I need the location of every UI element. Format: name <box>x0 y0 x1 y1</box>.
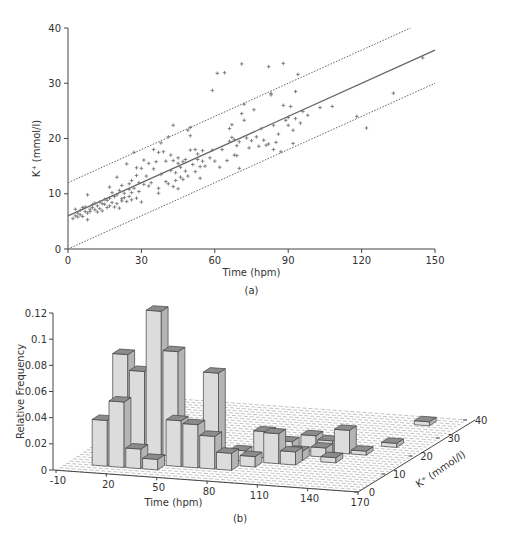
time-tick-label: 80 <box>203 486 216 497</box>
z-axis-label: Relative Frequency <box>15 344 26 439</box>
bar <box>143 454 165 470</box>
panel-label-b: (b) <box>233 513 247 524</box>
z-tick-label: 0.08 <box>25 360 47 371</box>
k-tick-label: 10 <box>393 469 406 480</box>
z-tick-label: 0.02 <box>25 438 47 449</box>
figure: 0102030400306090120150Time (hpm)K⁺ (mmol… <box>0 0 505 543</box>
time-tick-label: 140 <box>300 493 319 504</box>
z-tick-label: 0.1 <box>31 334 47 345</box>
z-tick-label: 0.06 <box>25 386 47 397</box>
k-tick-label: 40 <box>475 415 488 426</box>
k-tick-label: 0 <box>369 487 375 498</box>
z-tick-label: 0.12 <box>25 308 47 319</box>
time-tick-label: 110 <box>250 490 269 501</box>
time-tick-label: 50 <box>152 482 165 493</box>
k-tick-label: 30 <box>447 433 460 444</box>
bar <box>414 416 436 426</box>
z-tick-label: 0 <box>41 465 47 476</box>
bar <box>280 446 302 465</box>
bars <box>92 306 436 471</box>
bar <box>217 448 239 471</box>
k-tick-label: 20 <box>420 451 433 462</box>
time-tick-label: 20 <box>102 479 115 490</box>
time-tick-label: 170 <box>350 497 369 508</box>
time-tick-label: -10 <box>50 475 66 486</box>
bar <box>240 451 262 467</box>
time-axis-label: Time (hpm) <box>143 497 202 508</box>
z-tick-label: 0.04 <box>25 412 47 423</box>
bar3d-chart-b: 00.020.040.060.080.10.12Relative Frequen… <box>0 0 505 543</box>
